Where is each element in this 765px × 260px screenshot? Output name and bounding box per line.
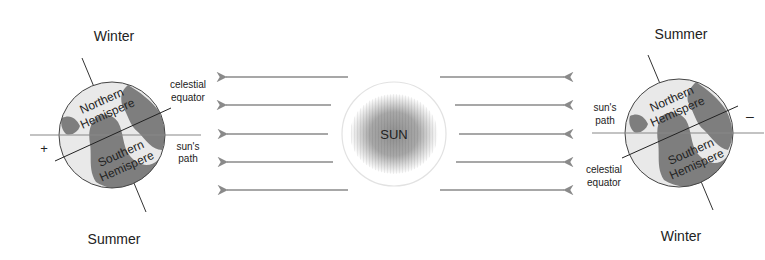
equator-label-2: equator (171, 92, 206, 103)
plus-sign: + (40, 141, 48, 156)
sun: SUN (342, 82, 446, 186)
left-bottom-season: Summer (88, 231, 141, 247)
left-earth: Winter Summer Northern Hemispere Souther… (30, 28, 206, 247)
equator-label-1: celestial (586, 164, 622, 175)
rays-right (440, 77, 564, 190)
seasons-diagram: SUN Winter Summer (0, 0, 765, 260)
right-bottom-season: Winter (661, 228, 702, 244)
left-top-season: Winter (94, 28, 135, 44)
minus-sign: – (746, 108, 754, 124)
right-top-season: Summer (655, 26, 708, 42)
sun-path-label-2: path (595, 115, 614, 126)
sun-path-label-2: path (178, 153, 197, 164)
sun-path-label-1: sun's (593, 102, 616, 113)
sun-label: SUN (380, 127, 407, 142)
sun-path-label-1: sun's (176, 141, 199, 152)
equator-label-1: celestial (170, 79, 206, 90)
rays-left (226, 77, 348, 190)
equator-label-2: equator (587, 177, 622, 188)
right-earth: Summer Winter Northern Hemispere Souther… (586, 26, 764, 244)
